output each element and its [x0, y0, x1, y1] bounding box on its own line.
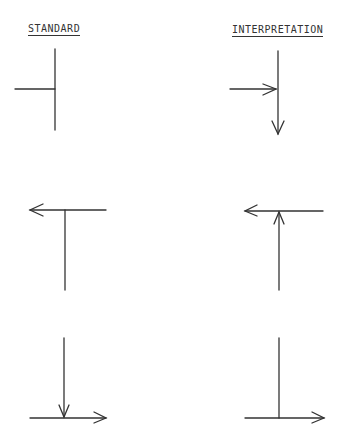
row3-interpretation-junction	[245, 338, 324, 423]
flow-diagram	[0, 0, 344, 448]
row2-standard-junction	[30, 204, 106, 290]
row1-interpretation-junction	[230, 51, 284, 134]
row2-interpretation-junction	[245, 205, 323, 290]
row1-standard-junction	[15, 49, 55, 130]
row3-standard-junction	[30, 338, 106, 423]
